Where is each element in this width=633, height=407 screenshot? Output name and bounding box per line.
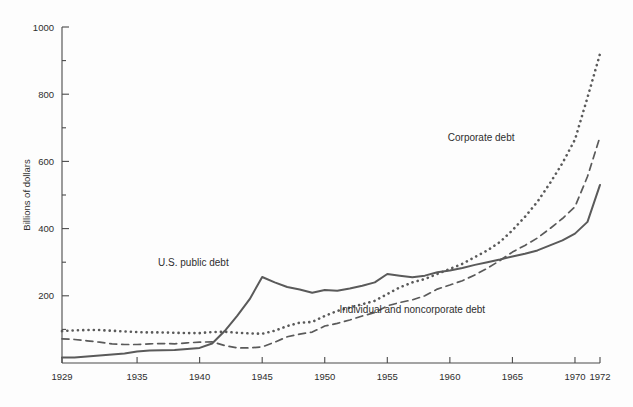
series-group xyxy=(62,54,600,358)
x-axis-tick-label: 1929 xyxy=(51,371,72,382)
x-axis-tick-label: 1950 xyxy=(314,371,335,382)
x-axis-tick-label: 1945 xyxy=(252,371,273,382)
series-line-dotted xyxy=(62,54,600,334)
debt-line-chart: 2004006008001000192919351940194519501955… xyxy=(0,0,633,407)
x-axis-tick-label: 1965 xyxy=(502,371,523,382)
y-axis-tick-label: 200 xyxy=(38,290,54,301)
chart-container: 2004006008001000192919351940194519501955… xyxy=(0,0,633,407)
y-axis-tick-label: 600 xyxy=(38,156,54,167)
x-axis-tick-label: 1970 xyxy=(564,371,585,382)
x-axis-tick-label: 1960 xyxy=(439,371,460,382)
y-axis-tick-label: 1000 xyxy=(33,22,54,33)
x-axis-tick-label: 1972 xyxy=(589,371,610,382)
y-axis-tick-label: 800 xyxy=(38,89,54,100)
x-axis-tick-label: 1940 xyxy=(189,371,210,382)
y-axis-title: Billions of dollars xyxy=(21,159,32,231)
annotations-group: U.S. public debtCorporate debtIndividual… xyxy=(158,132,515,315)
y-axis-tick-label: 400 xyxy=(38,223,54,234)
axes-group: 2004006008001000192919351940194519501955… xyxy=(21,22,611,382)
series-line-dashed xyxy=(62,137,600,348)
series-annotation: Individual and noncorporate debt xyxy=(339,304,485,315)
x-axis-tick-label: 1935 xyxy=(126,371,147,382)
series-annotation: U.S. public debt xyxy=(158,257,229,268)
series-annotation: Corporate debt xyxy=(448,132,515,143)
x-axis-tick-label: 1955 xyxy=(377,371,398,382)
